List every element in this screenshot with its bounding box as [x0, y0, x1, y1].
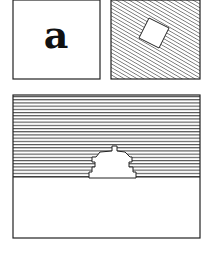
figure: a: [0, 0, 213, 260]
panel-a-letter: a: [44, 12, 69, 57]
panel-c: [13, 95, 200, 238]
panel-b: [111, 0, 200, 79]
panel-a: a: [13, 0, 100, 79]
